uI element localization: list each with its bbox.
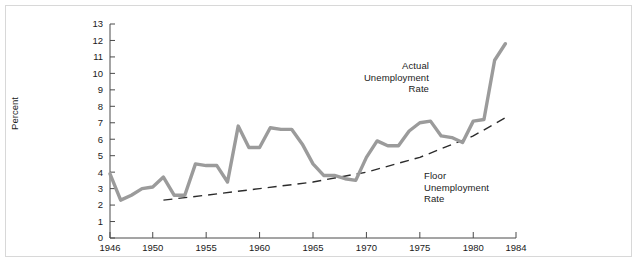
y-axis: 012345678910111213 [92, 18, 115, 243]
y-axis-tick-label: 7 [98, 117, 103, 128]
y-axis-tick-label: 4 [98, 167, 103, 178]
chart-figure: Percent 012345678910111213 1946195019551… [0, 0, 638, 263]
x-axis-tick-label: 1955 [196, 242, 217, 253]
floor-unemployment-rate-label: Floor Unemployment Rate [424, 170, 534, 205]
x-axis-tick-label: 1980 [463, 242, 484, 253]
y-axis-tick-label: 13 [92, 18, 103, 29]
y-axis-tick-label: 3 [98, 183, 103, 194]
x-axis-tick-label: 1970 [356, 242, 377, 253]
y-axis-tick-label: 11 [93, 51, 103, 62]
y-axis-tick-label: 6 [98, 134, 103, 145]
chart-plot-area: 012345678910111213 194619501955196019651… [0, 0, 638, 263]
x-axis-tick-label: 1950 [142, 242, 163, 253]
y-axis-tick-label: 12 [92, 35, 103, 46]
x-axis: 194619501955196019651970197519801984 [99, 232, 526, 253]
x-axis-tick-label: 1975 [409, 242, 430, 253]
y-axis-tick-label: 10 [92, 68, 103, 79]
x-axis-tick-label: 1946 [99, 242, 120, 253]
y-axis-tick-label: 8 [98, 101, 103, 112]
y-axis-tick-label: 5 [98, 150, 103, 161]
y-axis-tick-label: 2 [98, 199, 103, 210]
actual-unemployment-rate-label: Actual Unemployment Rate [333, 60, 429, 95]
x-axis-tick-label: 1965 [302, 242, 323, 253]
x-axis-tick-label: 1960 [249, 242, 270, 253]
x-axis-tick-label: 1984 [505, 242, 526, 253]
y-axis-tick-label: 1 [98, 216, 103, 227]
y-axis-tick-label: 9 [98, 84, 103, 95]
